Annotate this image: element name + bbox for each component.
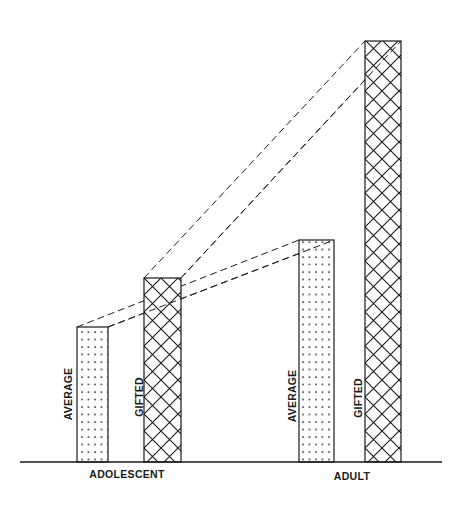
label-adult-average: AVERAGE: [286, 370, 298, 423]
category-label-adolescent: ADOLESCENT: [89, 468, 165, 480]
dashed-line-average-left: [77, 240, 299, 327]
label-adult-gifted: GIFTED: [352, 378, 364, 418]
growth-bar-diagram: AVERAGE GIFTED AVERAGE GIFTED ADOLESCENT…: [0, 0, 464, 508]
label-adolescent-gifted: GIFTED: [133, 377, 145, 417]
bar-adolescent-average: [77, 327, 108, 462]
perspective-lines: [77, 41, 401, 327]
category-label-adult: ADULT: [334, 470, 371, 482]
bar-adult-gifted: [365, 41, 401, 462]
bar-adult-average: [299, 240, 334, 462]
label-adolescent-average: AVERAGE: [62, 368, 74, 421]
